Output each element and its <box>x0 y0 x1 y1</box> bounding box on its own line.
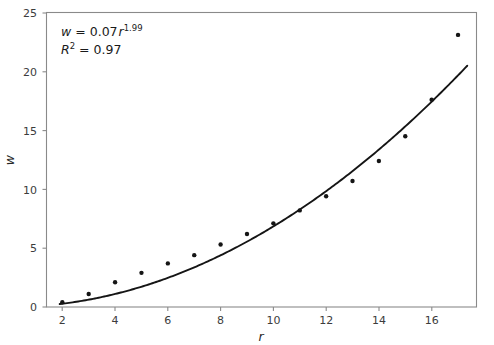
chart-figure: 2 4 6 8 10 12 14 16 0 5 10 15 20 25 r w … <box>0 0 494 345</box>
y-tick-label: 10 <box>23 184 37 197</box>
r-squared-lhs: R <box>61 42 70 57</box>
x-tick-label: 2 <box>59 314 66 327</box>
y-tick-label: 15 <box>23 125 37 138</box>
equation-operator: = <box>75 24 85 39</box>
x-tick-label: 12 <box>319 314 333 327</box>
equation-coefficient: 0.07 <box>90 24 118 39</box>
data-point <box>218 242 222 246</box>
x-axis-title: r <box>258 329 264 344</box>
data-point <box>403 134 407 138</box>
data-point <box>166 261 170 265</box>
scatter-plot: 2 4 6 8 10 12 14 16 0 5 10 15 20 25 r w … <box>0 0 494 345</box>
x-tick-label: 16 <box>425 314 439 327</box>
figure-background <box>0 0 494 345</box>
r-squared-operator: = <box>79 42 89 57</box>
x-tick-label: 14 <box>372 314 386 327</box>
data-point <box>350 179 354 183</box>
data-point <box>429 97 433 101</box>
data-point <box>298 208 302 212</box>
data-point <box>192 253 196 257</box>
r-squared-lhs-exponent: 2 <box>70 41 75 51</box>
y-axis-title: w <box>2 154 17 165</box>
data-point <box>377 159 381 163</box>
data-point <box>324 194 328 198</box>
y-tick-label: 20 <box>23 66 37 79</box>
data-point <box>245 232 249 236</box>
data-point <box>113 280 117 284</box>
x-tick-label: 4 <box>112 314 119 327</box>
data-point <box>60 300 64 304</box>
x-tick-label: 6 <box>164 314 171 327</box>
equation-lhs: w <box>61 24 72 39</box>
data-point <box>87 292 91 296</box>
data-point <box>271 221 275 225</box>
data-point <box>139 271 143 275</box>
y-tick-label: 5 <box>30 242 37 255</box>
r-squared-value: 0.97 <box>94 42 122 57</box>
data-point <box>456 33 460 37</box>
x-tick-label: 8 <box>217 314 224 327</box>
x-tick-label: 10 <box>266 314 280 327</box>
y-tick-label: 0 <box>30 301 37 314</box>
equation-exponent: 1.99 <box>124 23 143 33</box>
y-tick-label: 25 <box>23 7 37 20</box>
